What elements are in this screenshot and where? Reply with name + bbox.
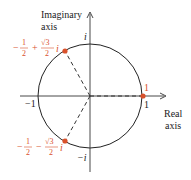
- svg-text:+: +: [32, 42, 38, 53]
- point-one-label: 1: [144, 82, 149, 93]
- svg-text:−: −: [36, 141, 42, 152]
- point-one: [140, 93, 145, 98]
- svg-text:2: 2: [49, 148, 53, 157]
- svg-text:√3: √3: [41, 38, 49, 47]
- upper-root-label: − 1 2 + √3 2 i: [13, 38, 59, 58]
- dashed-radius-upper: [65, 51, 90, 96]
- svg-text:2: 2: [26, 148, 30, 157]
- svg-text:i: i: [60, 142, 63, 153]
- svg-text:i: i: [56, 43, 59, 54]
- lower-root-label: − 1 2 − √3 2 i: [17, 137, 63, 157]
- intercept-one-label: 1: [144, 99, 149, 110]
- imaginary-axis-label-line1: Imaginary: [41, 9, 82, 20]
- real-axis-label-line1: Real: [164, 108, 183, 119]
- point-upper-root: [62, 48, 67, 53]
- point-lower-root: [62, 138, 67, 143]
- intercept-neg-i-label: −i: [77, 152, 87, 163]
- svg-text:1: 1: [22, 38, 26, 47]
- svg-text:1: 1: [26, 137, 30, 146]
- imaginary-axis-label-line2: axis: [41, 21, 57, 32]
- dashed-radius-lower: [65, 96, 90, 141]
- svg-text:2: 2: [45, 49, 49, 58]
- real-axis-label-line2: axis: [165, 120, 181, 131]
- svg-text:−: −: [17, 141, 23, 152]
- svg-text:2: 2: [22, 49, 26, 58]
- svg-text:√3: √3: [45, 137, 53, 146]
- intercept-neg-one-label: −1: [25, 98, 36, 109]
- svg-text:−: −: [13, 42, 19, 53]
- intercept-i-label: i: [84, 31, 87, 42]
- complex-plane-diagram: Imaginary axis Real axis i −i −1 1 1 − 1…: [0, 0, 191, 180]
